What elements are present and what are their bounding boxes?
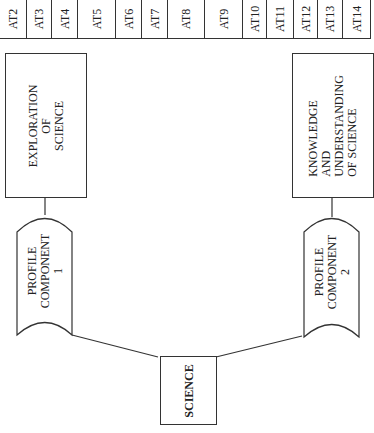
knowledge-understanding-label: KNOWLEDGE AND UNDERSTANDING OF SCIENCE: [307, 75, 359, 177]
profile-component-2-label: PROFILE COMPONENT 2: [313, 235, 352, 310]
science-label: SCIENCE: [182, 364, 195, 417]
exploration-of-science-label: EXPLORATION OF SCIENCE: [27, 84, 66, 167]
profile-component-1-label: PROFILE COMPONENT 1: [26, 234, 65, 309]
exploration-of-science-box: EXPLORATION OF SCIENCE: [5, 53, 87, 198]
science-box: SCIENCE: [160, 356, 217, 425]
knowledge-understanding-box: KNOWLEDGE AND UNDERSTANDING OF SCIENCE: [292, 53, 374, 198]
